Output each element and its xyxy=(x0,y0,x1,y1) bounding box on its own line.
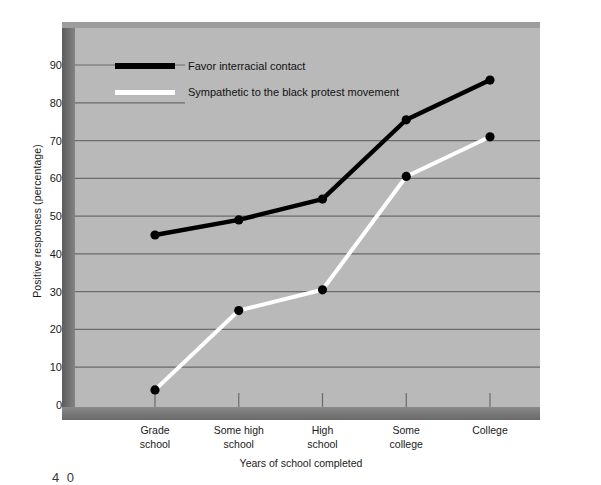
figure-caption: 4 0 xyxy=(52,470,76,485)
legend-label: Favor interracial contact xyxy=(188,60,305,72)
data-point xyxy=(402,172,411,181)
y-tick-label: 90 xyxy=(28,59,62,71)
data-point xyxy=(150,385,159,394)
x-axis-title: Years of school completed xyxy=(62,457,540,469)
data-point xyxy=(485,132,494,141)
data-point xyxy=(485,76,494,85)
data-point xyxy=(318,195,327,204)
y-tick-label: 80 xyxy=(28,97,62,109)
data-point xyxy=(234,215,243,224)
legend-swatch-white xyxy=(115,90,175,95)
y-tick-label: 10 xyxy=(28,361,62,373)
series-line xyxy=(155,137,490,390)
y-axis-tick-labels: 0102030405060708090 xyxy=(28,0,62,480)
data-point xyxy=(150,230,159,239)
y-tick-label: 40 xyxy=(28,248,62,260)
data-point xyxy=(318,285,327,294)
legend-label: Sympathetic to the black protest movemen… xyxy=(188,86,399,98)
x-axis-tick-labels: GradeschoolSome highschoolHighschoolSome… xyxy=(62,424,540,458)
data-point xyxy=(402,115,411,124)
chart-legend: Favor interracial contactSympathetic to … xyxy=(115,57,445,105)
legend-swatch-black xyxy=(115,63,175,69)
y-tick-label: 20 xyxy=(28,323,62,335)
data-point xyxy=(234,306,243,315)
x-tick-label: College xyxy=(435,424,545,438)
frame-left-bevel xyxy=(62,22,75,420)
y-tick-label: 0 xyxy=(28,399,62,411)
y-tick-label: 50 xyxy=(28,210,62,222)
legend-item: Favor interracial contact xyxy=(115,57,305,75)
frame-bottom-bevel xyxy=(62,407,540,420)
y-tick-label: 70 xyxy=(28,135,62,147)
y-tick-label: 60 xyxy=(28,172,62,184)
legend-item: Sympathetic to the black protest movemen… xyxy=(115,83,399,101)
y-tick-label: 30 xyxy=(28,286,62,298)
